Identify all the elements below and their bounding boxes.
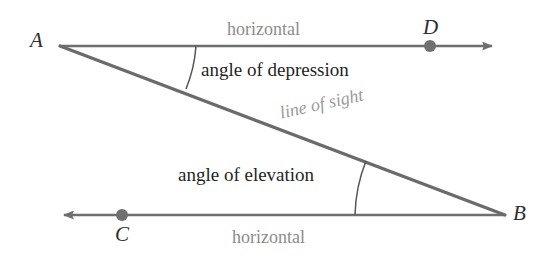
angle-of-depression-arc [186,46,196,89]
label-angle-of-depression: angle of depression [201,60,349,79]
point-label-d: D [423,17,438,38]
label-angle-of-elevation: angle of elevation [178,165,314,184]
trigonometry-angle-diagram: A B C D horizontal horizontal angle of d… [0,0,542,261]
label-horizontal-top: horizontal [227,20,300,38]
label-horizontal-bottom: horizontal [232,228,305,246]
point-label-c: C [115,224,129,245]
point-label-a: A [30,30,43,51]
diagram-canvas [0,0,542,261]
angle-of-elevation-arc [355,161,366,215]
point-label-b: B [513,203,526,224]
point-d-dot [424,40,436,52]
point-c-dot [116,209,128,221]
